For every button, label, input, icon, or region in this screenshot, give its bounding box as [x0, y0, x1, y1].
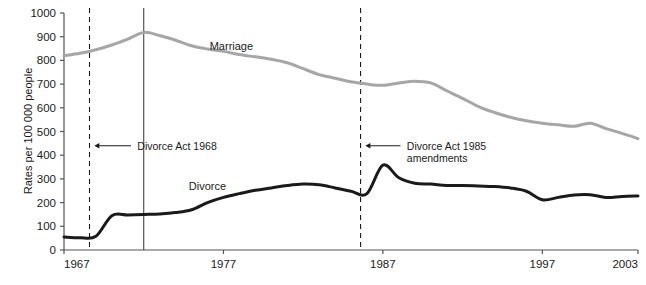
x-axis-tick-label: 1967: [64, 258, 90, 270]
x-axis-tick-label: 1997: [530, 258, 556, 270]
y-axis-tick-label: 100: [37, 220, 56, 232]
series-line-marriage: [64, 32, 638, 138]
y-axis-tick-label: 1000: [30, 7, 56, 19]
y-axis-tick-label: 700: [37, 78, 56, 90]
divorce-act-1985-annotation-arrow-head: [365, 143, 370, 149]
y-axis-tick-label: 800: [37, 54, 56, 66]
y-axis-tick-label: 400: [37, 149, 56, 161]
divorce-act-1985-annotation-text-line: Divorce Act 1985: [407, 140, 487, 152]
divorce-act-1968-annotation-arrow-head: [94, 143, 99, 149]
x-axis-tick-label: 1987: [370, 258, 396, 270]
series-line-divorce: [64, 165, 638, 239]
series-label-divorce: Divorce: [189, 180, 226, 192]
x-axis-tick-label: 1977: [211, 258, 237, 270]
y-axis-tick-label: 900: [37, 31, 56, 43]
chart-plot-area: 0100200300400500600700800900100019671977…: [0, 0, 646, 285]
divorce-act-1968-annotation-text-line: Divorce Act 1968: [137, 140, 217, 152]
x-axis-tick-label: 2003: [612, 258, 638, 270]
marriage-divorce-rate-chart: Rates per 100 000 people 010020030040050…: [0, 0, 646, 285]
y-axis-tick-label: 500: [37, 126, 56, 138]
y-axis-tick-label: 0: [50, 244, 56, 256]
divorce-act-1985-annotation-text-line: amendments: [407, 152, 468, 164]
y-axis-tick-label: 200: [37, 197, 56, 209]
y-axis-tick-label: 300: [37, 173, 56, 185]
series-label-marriage: Marriage: [210, 40, 253, 52]
y-axis-tick-label: 600: [37, 102, 56, 114]
